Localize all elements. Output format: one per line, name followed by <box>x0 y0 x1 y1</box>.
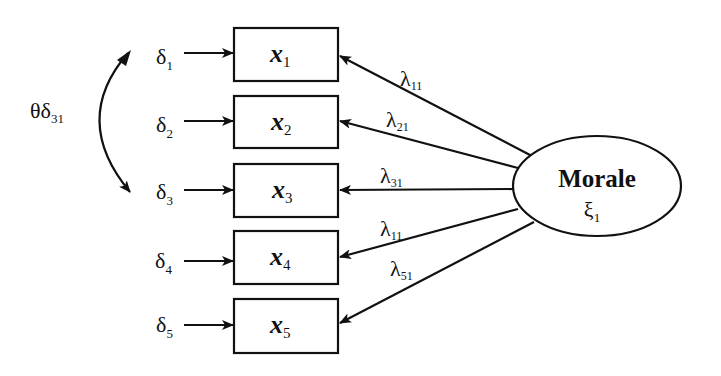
loading-arrow-2 <box>340 121 518 168</box>
loading-arrow-3 <box>340 189 513 190</box>
loading-arrow-5 <box>340 222 534 323</box>
indicator-row-5: δ5 x5 <box>156 299 338 353</box>
loading-label-4: λ11 <box>380 216 402 243</box>
sem-diagram: θδ31 δ1 x1 δ2 x2 δ3 x3 δ4 x4 δ5 x5 λ11 λ… <box>0 0 721 376</box>
loading-label-5: λ51 <box>390 256 413 283</box>
error-label-1: δ1 <box>156 44 173 73</box>
error-label-4: δ4 <box>155 248 172 277</box>
latent-name: Morale <box>558 165 636 192</box>
indicator-row-4: δ4 x4 <box>155 231 338 284</box>
loading-arrow-1 <box>340 56 530 155</box>
covariance-arrow <box>99 50 131 192</box>
indicator-row-2: δ2 x2 <box>156 96 338 148</box>
loading-label-3: λ31 <box>380 163 403 190</box>
covariance-label: θδ31 <box>30 98 64 126</box>
loading-label-1: λ11 <box>400 66 422 93</box>
loading-arrow-4 <box>340 209 518 257</box>
error-label-5: δ5 <box>156 312 173 341</box>
loading-label-2: λ21 <box>386 107 409 134</box>
indicator-row-1: δ1 x1 <box>156 28 338 81</box>
indicator-row-3: δ3 x3 <box>156 164 338 217</box>
error-label-2: δ2 <box>156 112 173 141</box>
error-label-3: δ3 <box>156 179 173 208</box>
